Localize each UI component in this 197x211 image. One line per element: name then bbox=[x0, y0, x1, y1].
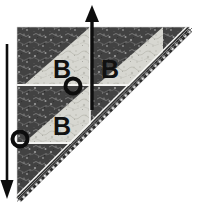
quilt-diagram: B B B bbox=[0, 0, 197, 211]
figure-caption bbox=[0, 207, 197, 211]
arrow-down-icon bbox=[1, 44, 14, 199]
block-label-bottom-left: B bbox=[53, 112, 71, 140]
arrow-down-head bbox=[1, 180, 14, 199]
arrow-up-head bbox=[85, 5, 99, 22]
block-label-top-right: B bbox=[101, 55, 119, 83]
figure-canvas: B B B bbox=[0, 0, 197, 211]
